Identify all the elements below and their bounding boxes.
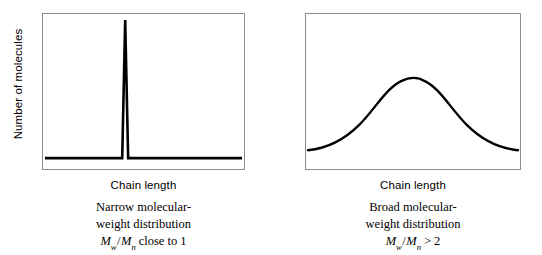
formula-mw-subscript-broad: w: [396, 242, 402, 252]
plot-area-narrow: [42, 13, 245, 170]
molecular-weight-distribution-figure: Number of molecules Chain length Narrow …: [0, 0, 542, 255]
broad-distribution-curve: [306, 14, 520, 169]
caption-narrow-formula: Mw/Mnclose to 1: [42, 233, 245, 252]
x-axis-label-broad: Chain length: [305, 179, 521, 191]
broad-curve-path: [308, 78, 518, 150]
caption-narrow: Narrow molecular- weight distribution Mw…: [42, 199, 245, 251]
formula-comparison-narrow: close to 1: [136, 234, 187, 248]
formula-mw-subscript: w: [111, 242, 117, 252]
caption-broad-formula: Mw/Mn> 2: [305, 233, 521, 252]
panel-narrow-distribution: Chain length Narrow molecular- weight di…: [42, 13, 245, 251]
caption-broad-line2: weight distribution: [305, 216, 521, 233]
caption-broad: Broad molecular- weight distribution Mw/…: [305, 199, 521, 251]
narrow-curve-path: [45, 20, 242, 158]
formula-mn-symbol: M: [121, 234, 131, 248]
formula-comparison-broad: > 2: [421, 234, 440, 248]
formula-mn-subscript: n: [131, 242, 135, 252]
caption-narrow-line2: weight distribution: [42, 216, 245, 233]
caption-broad-line1: Broad molecular-: [305, 199, 521, 216]
y-axis-label: Number of molecules: [12, 4, 24, 164]
formula-mw-symbol: M: [100, 234, 110, 248]
x-axis-label-narrow: Chain length: [42, 179, 245, 191]
plot-area-broad: [305, 13, 521, 170]
narrow-distribution-curve: [43, 14, 244, 169]
caption-narrow-line1: Narrow molecular-: [42, 199, 245, 216]
panel-broad-distribution: Chain length Broad molecular- weight dis…: [305, 13, 521, 251]
formula-mn-symbol-broad: M: [406, 234, 416, 248]
formula-mn-subscript-broad: n: [417, 242, 421, 252]
formula-mw-symbol-broad: M: [386, 234, 396, 248]
